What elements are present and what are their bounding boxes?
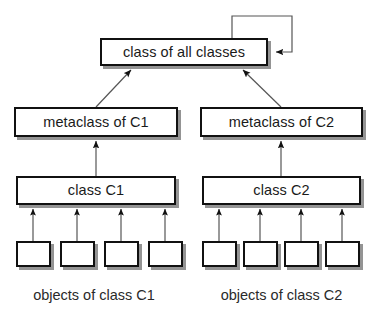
edge-metaclass-c2-to-root	[243, 70, 281, 107]
node-class-of-all-classes-label: class of all classes	[123, 45, 245, 60]
node-class-c1[interactable]: class C1	[16, 176, 176, 205]
node-class-c1-label: class C1	[68, 183, 124, 198]
object-box[interactable]	[104, 241, 139, 267]
object-box[interactable]	[202, 241, 237, 267]
object-box[interactable]	[16, 241, 51, 267]
caption-objects-of-class-c2: objects of class C2	[188, 288, 375, 303]
object-box[interactable]	[60, 241, 95, 267]
node-class-c2[interactable]: class C2	[202, 176, 361, 205]
edge-metaclass-c1-to-root	[96, 70, 131, 107]
object-box[interactable]	[284, 241, 319, 267]
object-box[interactable]	[243, 241, 278, 267]
node-metaclass-of-c2-label: metaclass of C2	[229, 115, 334, 130]
node-class-of-all-classes[interactable]: class of all classes	[100, 38, 268, 66]
node-metaclass-of-c1-label: metaclass of C1	[43, 115, 148, 130]
caption-objects-of-class-c1: objects of class C1	[0, 288, 188, 303]
metaclass-diagram: class of all classes metaclass of C1 met…	[0, 0, 375, 315]
object-box[interactable]	[148, 241, 183, 267]
node-class-c2-label: class C2	[253, 183, 309, 198]
object-box[interactable]	[325, 241, 360, 267]
node-metaclass-of-c2[interactable]: metaclass of C2	[200, 107, 363, 137]
node-metaclass-of-c1[interactable]: metaclass of C1	[14, 107, 178, 137]
